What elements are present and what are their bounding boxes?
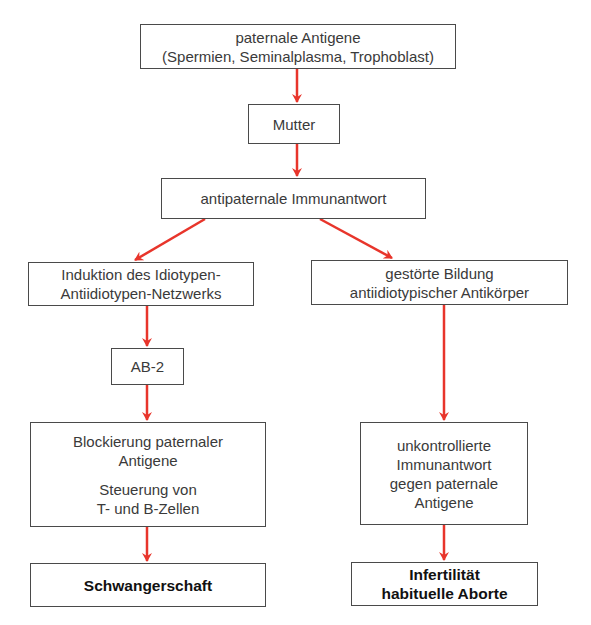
- arrows-layer: [0, 0, 591, 625]
- node-text: antipaternale Immunantwort: [201, 189, 387, 208]
- node-mother: Mutter: [248, 104, 340, 144]
- node-infertility: Infertilität habituelle Aborte: [351, 562, 538, 606]
- node-ab2: AB-2: [111, 348, 184, 385]
- node-text: unkontrollierte: [397, 436, 491, 455]
- node-blocking: Blockierung paternaler Antigene Steuerun…: [30, 422, 266, 527]
- arrow-response-to-disturbed: [320, 219, 392, 258]
- node-text: Induktion des Idiotypen-: [61, 265, 220, 284]
- node-text: habituelle Aborte: [381, 584, 507, 603]
- node-paternal-antigens: paternale Antigene (Spermien, Seminalpla…: [140, 24, 456, 69]
- node-text: antiidiotypischer Antikörper: [350, 283, 529, 302]
- node-pregnancy: Schwangerschaft: [30, 563, 266, 607]
- node-text: Schwangerschaft: [84, 576, 212, 595]
- node-text: Antigene: [414, 493, 473, 512]
- node-text: T- und B-Zellen: [97, 499, 200, 518]
- node-text: Immunantwort: [396, 455, 491, 474]
- node-text: Blockierung paternaler: [73, 432, 223, 451]
- node-text: paternale Antigene: [235, 28, 360, 47]
- node-text: Antiidiotypen-Netzwerks: [61, 284, 222, 303]
- node-text: Antigene: [118, 451, 177, 470]
- node-uncontrolled: unkontrollierte Immunantwort gegen pater…: [360, 422, 528, 525]
- node-text: Mutter: [273, 115, 316, 134]
- node-text: gegen paternale: [390, 474, 498, 493]
- node-text: Infertilität: [409, 565, 480, 584]
- node-antipaternal-response: antipaternale Immunantwort: [161, 178, 426, 219]
- arrow-response-to-induction: [135, 219, 205, 260]
- node-text: Steuerung von: [99, 480, 197, 499]
- node-text: (Spermien, Seminalplasma, Trophoblast): [162, 47, 434, 66]
- node-text: AB-2: [131, 357, 164, 376]
- node-disturbed-formation: gestörte Bildung antiidiotypischer Antik…: [311, 260, 568, 305]
- node-idiotype-induction: Induktion des Idiotypen- Antiidiotypen-N…: [28, 262, 254, 306]
- node-text: gestörte Bildung: [385, 264, 493, 283]
